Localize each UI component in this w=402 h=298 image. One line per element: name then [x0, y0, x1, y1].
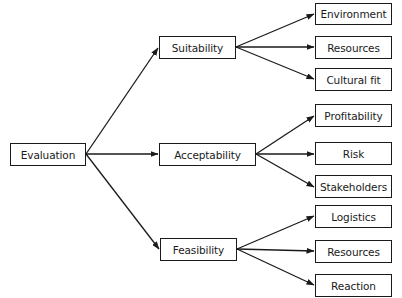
node-label: Acceptability	[174, 149, 241, 161]
node-logistics: Logistics	[315, 205, 392, 228]
node-suitability: Suitability	[159, 36, 236, 59]
node-label: Logistics	[331, 211, 376, 223]
arrow-suitability-cultural-fit	[236, 47, 314, 79]
node-label: Profitability	[324, 110, 382, 122]
arrow-evaluation-feasibility	[86, 154, 159, 249]
node-label: Risk	[343, 148, 364, 160]
node-label: Suitability	[172, 42, 223, 54]
node-label: Resources	[327, 42, 380, 54]
node-feasibility: Feasibility	[160, 238, 237, 261]
node-label: Evaluation	[21, 149, 75, 161]
arrow-suitability-environment	[236, 14, 314, 47]
node-environment: Environment	[315, 3, 392, 25]
node-acceptability: Acceptability	[159, 143, 256, 166]
node-label: Feasibility	[173, 244, 224, 256]
node-resources-suitability: Resources	[315, 36, 392, 59]
arrow-feasibility-resources	[237, 249, 314, 251]
node-evaluation: Evaluation	[10, 143, 86, 166]
node-resources-feasibility: Resources	[315, 240, 392, 263]
node-stakeholders: Stakeholders	[315, 175, 392, 198]
arrow-acceptability-stakeholders	[256, 154, 314, 187]
arrow-evaluation-suitability	[86, 48, 158, 154]
arrow-feasibility-reaction	[237, 249, 314, 285]
node-label: Resources	[327, 246, 380, 258]
arrow-feasibility-logistics	[237, 216, 314, 249]
node-label: Stakeholders	[320, 181, 387, 193]
node-risk: Risk	[315, 142, 392, 165]
node-label: Environment	[321, 8, 387, 20]
node-label: Cultural fit	[326, 74, 380, 86]
node-label: Reaction	[331, 280, 376, 292]
node-cultural-fit: Cultural fit	[315, 68, 392, 91]
node-reaction: Reaction	[315, 274, 392, 297]
node-profitability: Profitability	[315, 104, 392, 127]
arrow-acceptability-profitability	[256, 116, 314, 154]
